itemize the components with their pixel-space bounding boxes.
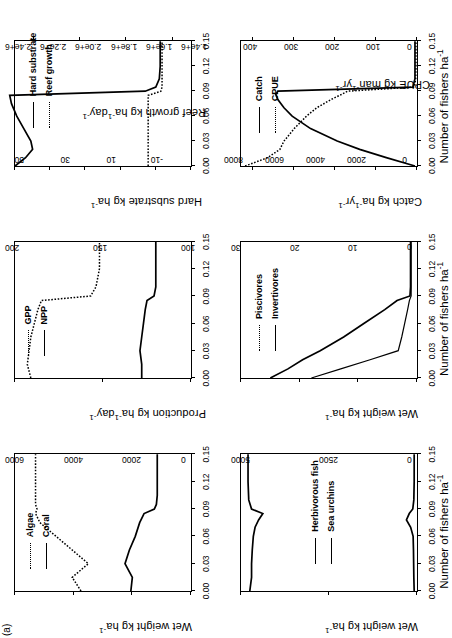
ytick-label-right: 8000 [224, 155, 243, 165]
xaxis-label-text: Number of fishers ha [438, 57, 450, 164]
figure-rotation-wrapper: (a) Wet weight kg ha-1 0 2000 4000 6000 … [0, 0, 452, 638]
ytick-label: 2.0e+6 [75, 42, 101, 52]
xaxis-label-text: Number of fishers ha [438, 482, 450, 589]
panel-gpp-npp: Production kg ha-1day-1 100 150 200 0.00… [0, 213, 226, 426]
legend-label-hard-substrate: Hard substrate [29, 33, 38, 97]
legend-key-algae [30, 543, 31, 569]
xtick-label: 0.09 [201, 288, 211, 305]
xtick-label: 0.09 [427, 288, 437, 305]
xtick-label: 0.03 [201, 132, 211, 149]
legend-piscivores-invertivores: Piscivores Invertivores [255, 268, 287, 351]
ytick-label-right: 50 [14, 155, 23, 165]
ytick-label: 200 [325, 42, 339, 52]
ytick-label: 150 [93, 243, 107, 253]
xtick-label: 0.00 [201, 583, 211, 600]
xaxis-label-sup: -1 [436, 262, 445, 269]
legend-label-piscivores: Piscivores [255, 274, 264, 319]
xtick-label: 0.12 [427, 261, 437, 278]
ytick-label-right: 10 [107, 155, 116, 165]
yaxis-label-wet-weight: Wet weight kg ha-1 [325, 621, 418, 635]
plot-area-algae-coral: 0 2000 4000 6000 0.00 0.03 0.06 0.09 0.1… [14, 453, 192, 592]
plot-area-piscivores-invertivores: 0 10 20 30 0.00 0.03 0.06 0.09 0.12 0.15… [240, 241, 418, 380]
xtick-label: 0.03 [201, 555, 211, 572]
panel-herbivores-urchins: Wet weight kg ha-1 Number of fishers ha-… [226, 425, 452, 638]
xtick-label: 0.00 [427, 583, 437, 600]
ytick-label: 1.6e+6 [146, 42, 172, 52]
xaxis-label: Number of fishers ha-1 [436, 213, 450, 426]
ytick-label: 1.8e+6 [111, 42, 137, 52]
xtick-label: 0.15 [427, 446, 437, 463]
legend-herbivores-urchins: Herbivorous fish Sea urchins [311, 460, 343, 564]
xtick-label: 0.09 [201, 83, 211, 100]
legend-key-coral [46, 543, 47, 569]
ytick-label: 100 [366, 42, 380, 52]
legend-label-reef-growth: Reef growth [45, 44, 54, 96]
plot-area-hardsubstrate-reefgrowth: 1.4e+6 1.6e+6 1.8e+6 2.0e+6 2.2e+6 2.4e+… [14, 40, 192, 167]
ytick-label-right: 6000 [265, 155, 284, 165]
xtick-label: 0.06 [427, 528, 437, 545]
legend-key-npp [44, 330, 45, 356]
legend-hardsubstrate-reefgrowth: Hard substrate Reef growth [29, 33, 61, 129]
panel-hardsubstrate-reefgrowth: Hard substrate kg ha-1 Reef growth kg ha… [0, 0, 226, 213]
ytick-label-right: -10 [150, 155, 162, 165]
ytick-label-right: 2000 [347, 155, 366, 165]
plot-area-herbivores-urchins: 0 2500 5000 0.00 0.03 0.06 0.09 0.12 0.1… [240, 453, 418, 592]
xtick-label: 0.03 [427, 343, 437, 360]
xtick-label: 0.06 [201, 108, 211, 125]
ytick-label: 20 [290, 243, 299, 253]
ytick-label: 400 [243, 42, 257, 52]
ytick-label: 0 [407, 243, 412, 253]
legend-label-cpue: CPUE [271, 76, 280, 101]
xtick-label: 0.00 [427, 157, 437, 174]
xaxis-label: Number of fishers ha-1 [436, 425, 450, 638]
ytick-label: 6000 [5, 455, 24, 465]
plot-area-catch-cpue: 0 100 200 300 400 0 2000 4000 6000 8000 … [240, 40, 418, 167]
legend-key-invertivores [275, 325, 276, 351]
panel-tag: (a) [1, 624, 12, 636]
panel-piscivores-invertivores: Wet weight kg ha-1 Number of fishers ha-… [226, 213, 452, 426]
xtick-label: 0.03 [201, 343, 211, 360]
legend-key-piscivores [259, 325, 260, 351]
legend-label-npp: NPP [40, 306, 49, 325]
legend-label-herbivorous-fish: Herbivorous fish [311, 460, 320, 532]
legend-label-invertivores: Invertivores [271, 268, 280, 319]
legend-label-gpp: GPP [24, 305, 33, 324]
ytick-label: 0 [407, 42, 412, 52]
ytick-label: 200 [5, 243, 19, 253]
xaxis-label: Number of fishers ha-1 [436, 0, 450, 213]
yaxis-label-wet-weight: Wet weight kg ha-1 [325, 409, 418, 423]
ytick-label: 2000 [122, 455, 141, 465]
legend-gpp-npp: GPP NPP [24, 305, 56, 356]
ytick-label: 0 [407, 455, 412, 465]
yaxis-label-production: Production kg ha-1day-1 [90, 409, 207, 423]
legend-algae-coral: Algae Coral [26, 513, 58, 570]
xtick-label: 0.12 [201, 58, 211, 75]
yaxis-label-hard-substrate: Hard substrate kg ha-1 [91, 196, 202, 210]
legend-key-reef-growth [49, 102, 50, 128]
legend-catch-cpue: Catch CPUE [255, 76, 287, 133]
ytick-label: 4000 [64, 455, 83, 465]
xtick-label: 0.12 [427, 58, 437, 75]
xtick-label: 0.12 [427, 473, 437, 490]
xtick-label: 0.03 [427, 555, 437, 572]
legend-label-sea-urchins: Sea urchins [327, 481, 336, 532]
xaxis-label-text: Number of fishers ha [438, 269, 450, 376]
panel-catch-cpue: Catch kg ha-1yr-1 CPUE kg man-1yr-1 Numb… [226, 0, 452, 213]
legend-key-catch [259, 107, 260, 133]
plot-area-gpp-npp: 100 150 200 0.00 0.03 0.06 0.09 0.12 0.1… [14, 241, 192, 380]
legend-label-catch: Catch [255, 76, 264, 101]
panel-grid: (a) Wet weight kg ha-1 0 2000 4000 6000 … [0, 0, 452, 638]
xtick-label: 0.15 [201, 233, 211, 250]
legend-key-herbivorous-fish [315, 538, 316, 564]
xtick-label: 0.00 [201, 157, 211, 174]
xtick-label: 0.12 [201, 473, 211, 490]
xaxis-label-sup: -1 [436, 49, 445, 56]
legend-label-algae: Algae [26, 513, 35, 538]
xaxis-label-sup: -1 [436, 475, 445, 482]
panel-algae-coral: (a) Wet weight kg ha-1 0 2000 4000 6000 … [0, 425, 226, 638]
xtick-label: 0.15 [427, 33, 437, 50]
legend-key-gpp [28, 330, 29, 356]
xtick-label: 0.12 [201, 261, 211, 278]
yaxis-label-catch: Catch kg ha-1yr-1 [339, 196, 423, 210]
xtick-label: 0.15 [201, 33, 211, 50]
